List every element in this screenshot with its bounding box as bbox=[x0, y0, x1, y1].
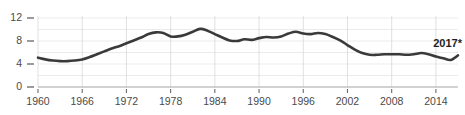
x-axis-tick-label: 1972 bbox=[115, 95, 139, 107]
vertical-gridlines bbox=[38, 16, 436, 87]
y-axis-tick-label: 0 bbox=[16, 80, 22, 92]
x-axis-tick-label: 1966 bbox=[71, 95, 95, 107]
x-axis-tick-label: 1990 bbox=[247, 95, 271, 107]
chart-container: 04812 1960196619721978198419901996200220… bbox=[0, 0, 465, 115]
horizontal-gridlines bbox=[38, 18, 458, 76]
x-axis-tick-label: 2008 bbox=[380, 95, 404, 107]
y-axis-tick-label: 4 bbox=[16, 57, 22, 69]
x-axis-ticks: 1960196619721978198419901996200220082014 bbox=[26, 89, 447, 107]
y-axis-tick-label: 12 bbox=[10, 11, 22, 23]
x-axis-tick-label: 1984 bbox=[203, 95, 227, 107]
y-axis-tick-label: 8 bbox=[16, 34, 22, 46]
x-axis-tick-label: 1960 bbox=[26, 95, 50, 107]
x-axis-tick-label: 2002 bbox=[336, 95, 360, 107]
x-axis-tick-label: 2014 bbox=[424, 95, 448, 107]
series-line-path bbox=[38, 29, 458, 61]
annotation-endpoint-label: 2017* bbox=[433, 37, 462, 49]
line-chart: 04812 1960196619721978198419901996200220… bbox=[0, 0, 465, 115]
x-axis-tick-label: 1996 bbox=[292, 95, 316, 107]
y-axis-ticks: 04812 bbox=[10, 11, 34, 92]
data-series bbox=[38, 29, 458, 61]
x-axis-tick-label: 1978 bbox=[159, 95, 183, 107]
chart-annotations: 2017* bbox=[433, 37, 462, 49]
